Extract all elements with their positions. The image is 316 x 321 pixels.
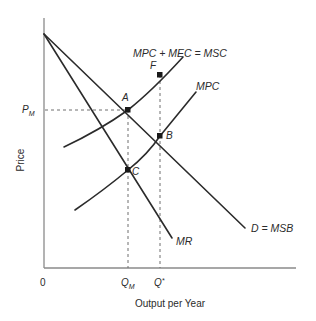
curve-label-mr: MR	[176, 235, 193, 247]
xtick-qm-subscript: M	[129, 283, 135, 290]
point-labels-group: A B C F	[121, 60, 173, 177]
curve-label-demand-msb: D = MSB	[251, 222, 293, 234]
xtick-label-qm: QM	[121, 277, 135, 290]
curve-label-msc: MPC + MEC = MSC	[133, 47, 227, 59]
xtick-label-qstar: Q*	[154, 277, 165, 288]
x-axis-title: Output per Year	[135, 298, 206, 309]
point-marker-a	[125, 107, 131, 113]
point-marker-c	[125, 167, 131, 173]
guide-lines-group	[45, 75, 160, 268]
point-markers-group	[125, 72, 163, 173]
chart-canvas: MPC + MEC = MSC MPC D = MSB MR A B C F 0…	[0, 0, 316, 321]
y-axis-title: Price	[15, 148, 26, 171]
point-label-b: B	[166, 130, 173, 141]
point-label-a: A	[121, 92, 129, 103]
ytick-pm-subscript: M	[29, 110, 35, 117]
point-marker-b	[157, 133, 163, 139]
economics-externality-diagram: MPC + MEC = MSC MPC D = MSB MR A B C F 0…	[0, 0, 316, 321]
curves-group	[44, 34, 245, 238]
ytick-label-pm: PM	[22, 104, 35, 117]
point-label-c: C	[132, 166, 140, 177]
xtick-qstar-star: *	[162, 277, 165, 284]
origin-label: 0	[40, 277, 46, 288]
curve-demand-msb	[44, 34, 245, 228]
point-label-f: F	[150, 60, 157, 71]
point-marker-f	[157, 72, 163, 78]
curve-label-mpc: MPC	[196, 80, 220, 92]
